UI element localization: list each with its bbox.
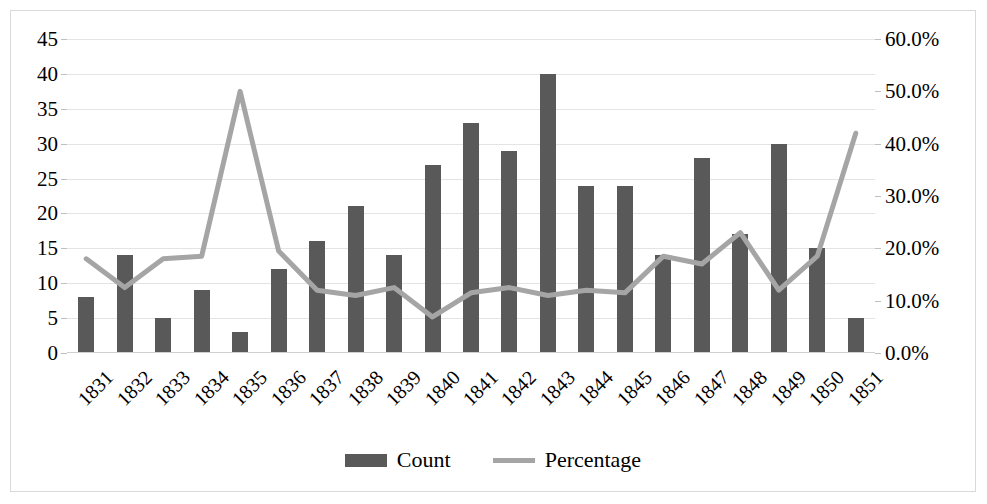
legend-line-swatch-icon xyxy=(493,458,535,463)
x-axis-label-1843: 1843 xyxy=(536,367,578,409)
x-axis-label-1846: 1846 xyxy=(651,367,693,409)
x-axis-label-1838: 1838 xyxy=(344,367,386,409)
x-axis-label-1841: 1841 xyxy=(459,367,501,409)
left-axis-tick-label: 30 xyxy=(37,133,58,154)
legend-bar-swatch-icon xyxy=(345,454,387,467)
chart-container: 051015202530354045 0.0%10.0%20.0%30.0%40… xyxy=(10,10,976,492)
left-axis-tick-label: 25 xyxy=(37,168,58,189)
right-tick-mark xyxy=(875,196,881,197)
x-axis-label-1834: 1834 xyxy=(190,367,232,409)
x-axis-label-1849: 1849 xyxy=(767,367,809,409)
x-axis-label-1851: 1851 xyxy=(844,367,886,409)
x-axis-label-1835: 1835 xyxy=(228,367,270,409)
x-axis-label-1847: 1847 xyxy=(690,367,732,409)
x-axis-label-1839: 1839 xyxy=(382,367,424,409)
left-axis-tick-label: 5 xyxy=(48,308,59,329)
left-axis-tick-label: 40 xyxy=(37,63,58,84)
x-axis-label-1845: 1845 xyxy=(613,367,655,409)
plot-area: 051015202530354045 0.0%10.0%20.0%30.0%40… xyxy=(67,39,875,353)
x-axis-label-1842: 1842 xyxy=(497,367,539,409)
line-series-percentage xyxy=(67,39,875,353)
chart-legend: Count Percentage xyxy=(11,449,975,471)
right-tick-mark xyxy=(875,248,881,249)
right-tick-mark xyxy=(875,301,881,302)
right-tick-mark xyxy=(875,353,881,354)
x-axis-label-1848: 1848 xyxy=(728,367,770,409)
left-axis-tick-label: 0 xyxy=(48,343,59,364)
percentage-polyline xyxy=(86,91,856,317)
left-tick-mark xyxy=(61,353,67,354)
legend-label-percentage: Percentage xyxy=(545,449,642,471)
left-axis-tick-label: 45 xyxy=(37,29,58,50)
right-axis-tick-label: 30.0% xyxy=(885,186,939,207)
x-axis-label-1836: 1836 xyxy=(267,367,309,409)
x-axis-label-1850: 1850 xyxy=(805,367,847,409)
x-axis-label-1840: 1840 xyxy=(421,367,463,409)
right-axis-tick-label: 60.0% xyxy=(885,29,939,50)
right-axis-tick-label: 40.0% xyxy=(885,133,939,154)
right-tick-mark xyxy=(875,39,881,40)
right-axis-tick-label: 20.0% xyxy=(885,238,939,259)
left-axis-tick-label: 10 xyxy=(37,273,58,294)
right-axis-tick-label: 10.0% xyxy=(885,290,939,311)
x-axis-label-1832: 1832 xyxy=(113,367,155,409)
x-axis-label-1831: 1831 xyxy=(74,367,116,409)
legend-item-percentage[interactable]: Percentage xyxy=(493,449,642,471)
left-axis-tick-label: 20 xyxy=(37,203,58,224)
legend-label-count: Count xyxy=(397,449,451,471)
right-tick-mark xyxy=(875,91,881,92)
x-axis-line xyxy=(67,352,875,353)
x-axis-label-1837: 1837 xyxy=(305,367,347,409)
right-axis-tick-label: 50.0% xyxy=(885,81,939,102)
x-axis-label-1844: 1844 xyxy=(574,367,616,409)
left-axis-tick-label: 35 xyxy=(37,98,58,119)
right-tick-mark xyxy=(875,144,881,145)
right-axis-tick-label: 0.0% xyxy=(885,343,929,364)
legend-item-count[interactable]: Count xyxy=(345,449,451,471)
x-axis-label-1833: 1833 xyxy=(151,367,193,409)
left-axis-tick-label: 15 xyxy=(37,238,58,259)
